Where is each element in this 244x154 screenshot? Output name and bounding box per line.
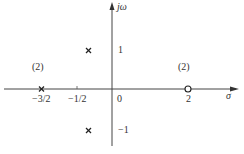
pole-multiplicity-label: (2) xyxy=(32,62,44,72)
tick-label-neg-three-halves: −3/2 xyxy=(32,94,50,104)
real-axis-arrow-icon xyxy=(230,87,239,92)
pole-marker-icon xyxy=(86,128,91,133)
tick-label-neg-half: −1/2 xyxy=(68,94,86,104)
tick-label-j1: 1 xyxy=(118,45,123,55)
tick-label-origin: 0 xyxy=(117,94,122,104)
tick-label-two: 2 xyxy=(186,94,191,104)
zero-marker-icon xyxy=(185,86,191,92)
real-axis-label: σ xyxy=(226,91,231,101)
zero-multiplicity-label: (2) xyxy=(178,62,190,72)
pole-marker-icon xyxy=(86,48,91,53)
tick-label-neg-j1: −1 xyxy=(118,125,129,135)
imag-axis-label: jω xyxy=(117,2,127,12)
imag-axis-arrow-icon xyxy=(110,2,115,10)
